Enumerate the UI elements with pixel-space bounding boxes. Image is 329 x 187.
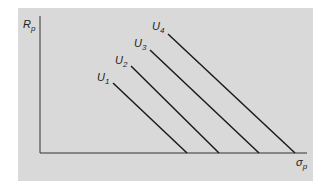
curve-label-u4: U4: [152, 20, 165, 35]
curve-label-u3: U3: [134, 37, 147, 52]
curve-u1: [113, 83, 187, 153]
curve-u4: [168, 34, 295, 153]
y-axis-label: Rp: [23, 18, 36, 33]
curve-label-u1: U1: [97, 71, 109, 86]
curve-u2: [131, 66, 219, 153]
curve-label-u2: U2: [115, 54, 128, 69]
x-axis-label: σp: [296, 156, 308, 171]
utility-diagram: Rp σp U1 U2 U3 U4: [0, 0, 329, 187]
